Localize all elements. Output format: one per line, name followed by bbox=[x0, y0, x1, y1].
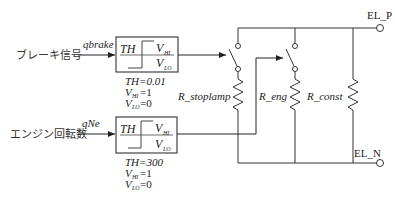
resistor-const bbox=[348, 28, 358, 163]
block-params-engine: TH=300 V HI =1 V LO =0 bbox=[125, 156, 163, 191]
svg-text:=0: =0 bbox=[140, 178, 152, 190]
label-r-stoplamp: R_stoplamp bbox=[177, 90, 231, 102]
svg-text:HI: HI bbox=[131, 174, 139, 180]
terminal-el-n bbox=[377, 160, 384, 167]
svg-text:HI: HI bbox=[162, 130, 170, 136]
switch-stoplamp bbox=[229, 44, 241, 72]
block-params-brake: TH=0.01 V HI =1 V LO =0 bbox=[125, 75, 166, 110]
signal-label-qNe: qNe bbox=[82, 117, 100, 129]
svg-text:LO: LO bbox=[131, 104, 140, 110]
positive-rail bbox=[238, 28, 377, 44]
svg-text:HI: HI bbox=[163, 50, 171, 56]
label-r-eng: R_eng bbox=[258, 90, 288, 102]
signal-label-qbrake: qbrake bbox=[83, 38, 114, 50]
circuit-diagram: ブレーキ信号 qbrake TH V HI V LO TH=0.01 V HI … bbox=[0, 0, 395, 201]
svg-text:LO: LO bbox=[131, 185, 140, 191]
input-label-engine: エンジン回転数 bbox=[10, 128, 87, 141]
svg-text:TH: TH bbox=[120, 42, 137, 56]
svg-text:LO: LO bbox=[163, 65, 172, 71]
resistor-stoplamp bbox=[233, 72, 243, 163]
terminal-label-el-n: EL_N bbox=[354, 147, 381, 159]
threshold-block-engine: TH V HI V LO bbox=[116, 117, 177, 153]
resistor-eng bbox=[290, 72, 300, 163]
input-label-brake: ブレーキ信号 bbox=[16, 48, 82, 62]
svg-text:HI: HI bbox=[131, 93, 139, 99]
label-r-const: R_const bbox=[306, 90, 343, 102]
svg-text:TH: TH bbox=[120, 122, 137, 136]
terminal-el-p bbox=[377, 25, 384, 32]
switch-eng bbox=[286, 44, 298, 72]
svg-text:=0: =0 bbox=[140, 97, 152, 109]
terminal-label-el-p: EL_P bbox=[367, 9, 392, 21]
threshold-block-brake: TH V HI V LO bbox=[116, 37, 178, 72]
svg-text:LO: LO bbox=[162, 146, 171, 152]
